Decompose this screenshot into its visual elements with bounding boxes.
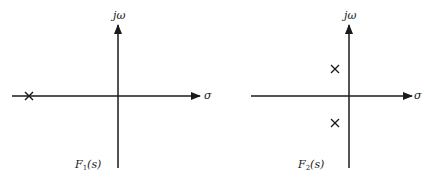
jw-axis-label: jω — [341, 9, 356, 22]
panel-f2: jω σ F2(s) — [251, 9, 422, 172]
panel-caption: F2(s) — [297, 158, 324, 172]
jw-axis-label: jω — [110, 9, 125, 22]
panel-caption: F1(s) — [74, 158, 101, 172]
pole-diagram: jω σ F1(s) jω σ F2(s) — [0, 0, 424, 180]
pole-marker-icon — [331, 65, 339, 73]
pole-marker-icon — [331, 119, 339, 127]
panel-f1: jω σ F1(s) — [12, 9, 212, 172]
sigma-axis-label: σ — [204, 89, 212, 102]
sigma-axis-label: σ — [414, 89, 422, 102]
